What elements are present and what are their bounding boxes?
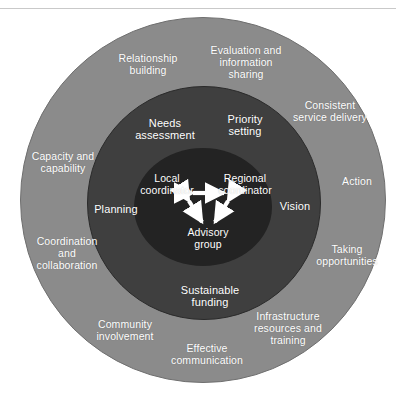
label-capacity-and-capability: Capacity and capability (32, 151, 95, 175)
label-planning: Planning (94, 203, 138, 215)
label-consistent-service-delivery: Consistent service delivery (293, 100, 367, 124)
label-vision: Vision (280, 200, 310, 212)
label-local-coordinator: Local coordinator (140, 173, 194, 197)
top-divider-rule (0, 8, 396, 9)
label-effective-communication: Effective communication (171, 343, 243, 367)
label-infrastructure-resources-and-training: Infrastructure resources and training (254, 311, 322, 346)
label-regional-coordinator: Regional coordinator (218, 173, 272, 197)
label-coordination-and-collaboration: Coordination and collaboration (37, 236, 98, 271)
concentric-circles-diagram: Relationship buildingEvaluation and info… (0, 0, 410, 413)
label-action: Action (342, 176, 372, 188)
label-evaluation-and-information-sharing: Evaluation and information sharing (211, 45, 282, 80)
label-priority-setting: Priority setting (227, 113, 262, 138)
label-advisory-group: Advisory group (187, 227, 228, 251)
label-community-involvement: Community involvement (96, 319, 153, 343)
label-taking-opportunities: Taking opportunities (316, 244, 377, 268)
label-relationship-building: Relationship building (119, 53, 178, 77)
label-sustainable-funding: Sustainable funding (181, 284, 240, 309)
label-needs-assessment: Needs assessment (135, 117, 195, 142)
